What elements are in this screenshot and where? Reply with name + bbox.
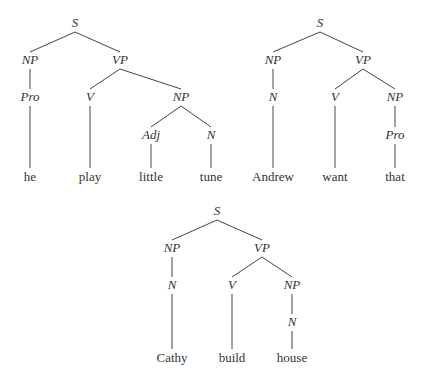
word-leaf: build: [219, 350, 246, 365]
category-node: VP: [112, 52, 128, 67]
tree-edge: [217, 220, 262, 240]
tree-edge: [172, 220, 217, 240]
tree-labels: SNPVPProVNPAdjNheplaylittletuneSNPVPNVNP…: [19, 15, 405, 365]
category-node: NP: [172, 89, 190, 104]
category-node: V: [331, 89, 341, 104]
category-node: N: [167, 277, 178, 292]
word-leaf: tune: [200, 169, 223, 184]
category-node: N: [268, 89, 279, 104]
syntax-tree-diagram: SNPVPProVNPAdjNheplaylittletuneSNPVPNVNP…: [0, 0, 422, 378]
tree-edge: [120, 69, 181, 89]
word-leaf: that: [385, 169, 405, 184]
tree-edge: [320, 32, 363, 52]
category-node: NP: [283, 277, 301, 292]
word-leaf: Andrew: [252, 169, 294, 184]
tree-edge: [363, 69, 395, 89]
tree-edge: [262, 257, 292, 277]
tree-edges: [30, 32, 395, 349]
word-leaf: house: [277, 350, 308, 365]
category-node: NP: [264, 52, 282, 67]
category-node: V: [228, 277, 238, 292]
category-node: V: [86, 89, 96, 104]
category-node: VP: [254, 240, 270, 255]
category-node: N: [287, 314, 298, 329]
category-node: S: [214, 203, 221, 218]
tree-edge: [75, 32, 120, 52]
tree-edge: [232, 257, 262, 277]
category-node: NP: [163, 240, 181, 255]
category-node: S: [72, 15, 79, 30]
category-node: Pro: [19, 89, 40, 104]
tree-edge: [181, 106, 211, 127]
category-node: NP: [386, 89, 404, 104]
tree-edge: [90, 69, 120, 89]
tree-edge: [151, 106, 181, 127]
word-leaf: Cathy: [156, 350, 188, 365]
category-node: N: [206, 127, 217, 142]
tree-edge: [30, 32, 75, 52]
category-node: S: [317, 15, 324, 30]
tree-edge: [335, 69, 363, 89]
word-leaf: want: [322, 169, 348, 184]
category-node: NP: [21, 52, 39, 67]
tree-edge: [273, 32, 320, 52]
category-node: Adj: [141, 127, 160, 142]
word-leaf: play: [79, 169, 102, 184]
word-leaf: little: [139, 169, 163, 184]
category-node: Pro: [384, 127, 405, 142]
word-leaf: he: [24, 169, 37, 184]
category-node: VP: [355, 52, 371, 67]
